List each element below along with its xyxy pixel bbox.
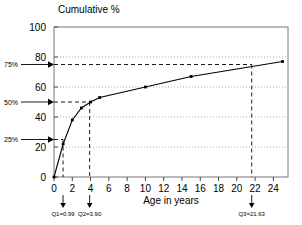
x-tick-label: 20 (231, 183, 243, 194)
chart-container: 020406080100 024681012141618202224 25%50… (0, 0, 302, 225)
y-tick-label: 40 (35, 112, 47, 123)
x-tick-label: 24 (268, 183, 280, 194)
cumulative-curve (54, 62, 283, 178)
x-tick-label: 8 (124, 183, 130, 194)
x-tick-label: 4 (88, 183, 94, 194)
x-tick-label: 18 (213, 183, 225, 194)
data-point-markers (53, 60, 284, 178)
x-tick-label: 0 (51, 183, 57, 194)
x-tick-label: 14 (176, 183, 188, 194)
percentile-label: 75% (4, 61, 18, 68)
x-axis-ticks: 024681012141618202224 (51, 177, 279, 194)
y-tick-label: 0 (40, 172, 46, 183)
percentile-label: 25% (4, 136, 18, 143)
quartile-guides (54, 65, 252, 178)
x-tick-label: 12 (158, 183, 170, 194)
quartile-label-q3: Q3=21.63 (238, 211, 265, 217)
y-tick-label: 80 (35, 52, 47, 63)
x-tick-label: 22 (250, 183, 262, 194)
y-tick-label: 20 (35, 142, 47, 153)
x-tick-label: 6 (106, 183, 112, 194)
quartile-label-q2: Q2=3.90 (78, 211, 102, 217)
x-tick-label: 2 (70, 183, 76, 194)
x-tick-label: 16 (195, 183, 207, 194)
x-tick-label: 10 (140, 183, 152, 194)
ogive-chart: 020406080100 024681012141618202224 25%50… (0, 0, 302, 225)
y-tick-label: 100 (29, 22, 46, 33)
chart-title: Cumulative % (58, 4, 120, 15)
percentile-markers: 25%50%75% (4, 61, 54, 143)
x-axis-label: Age in years (143, 195, 199, 206)
percentile-label: 50% (4, 99, 18, 106)
y-tick-label: 60 (35, 82, 47, 93)
quartile-label-q1: Q1=0.99 (51, 211, 75, 217)
